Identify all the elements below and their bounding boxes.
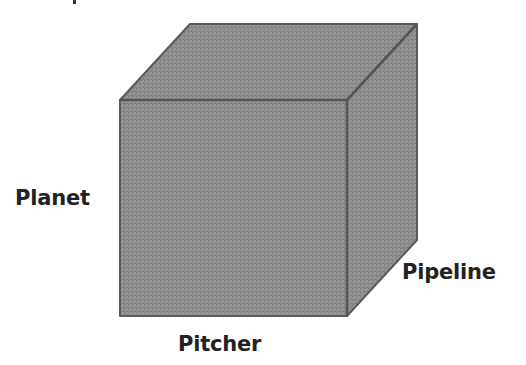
axis-label-pitcher: Pitcher (178, 332, 261, 356)
cube-front-face (120, 100, 347, 316)
axis-label-planet: Planet (15, 186, 90, 210)
axis-label-pipeline: Pipeline (402, 260, 496, 284)
cube-diagram (0, 0, 526, 365)
